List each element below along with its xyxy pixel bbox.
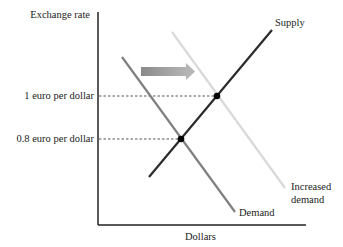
supply-line (149, 30, 272, 177)
increased-demand-line (172, 32, 285, 188)
equilibrium-point-low (178, 136, 185, 143)
equilibrium-point-high (214, 93, 221, 100)
demand-label: Demand (239, 207, 275, 219)
supply-demand-diagram (0, 0, 343, 247)
y-axis-label: Exchange rate (0, 9, 90, 21)
increased-demand-label-2: demand (291, 194, 324, 206)
demand-line (122, 57, 235, 212)
tick-label-low: 0.8 euro per dollar (0, 133, 94, 145)
tick-label-high: 1 euro per dollar (0, 90, 94, 102)
supply-label: Supply (275, 17, 305, 29)
increased-demand-label-1: Increased (291, 181, 331, 193)
shift-arrow-icon (141, 63, 195, 80)
x-axis-label: Dollars (185, 231, 216, 243)
